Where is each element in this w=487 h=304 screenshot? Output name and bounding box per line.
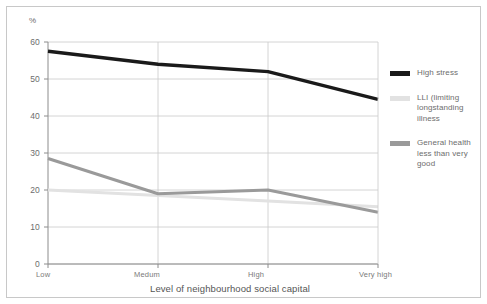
y-tick-label-60: 60 [18,37,40,47]
y-tick-label-20: 20 [18,185,40,195]
y-tick-label-30: 30 [18,148,40,158]
legend-item-lli: LLI (limiting longstanding illness [390,93,482,125]
legend-label-lli: LLI (limiting longstanding illness [417,93,479,125]
y-tick-label-40: 40 [18,111,40,121]
x-tick-label-low: Low [36,270,50,279]
y-tick-label-10: 10 [18,222,40,232]
y-tick-label-50: 50 [18,74,40,84]
legend-label-high-stress: High stress [417,68,458,79]
legend-swatch-high-stress [390,71,410,76]
x-tick-label-high: High [248,270,264,279]
legend-item-high-stress: High stress [390,68,482,79]
chart-page: % 60 50 40 30 20 10 0 Low Medum High Ver… [0,0,487,304]
x-axis-title: Level of neighbourhood social capital [150,283,310,294]
x-tick-label-medum: Medum [134,270,160,279]
legend-swatch-general-health [390,141,410,146]
y-tick-label-0: 0 [18,259,40,269]
y-axis-unit-label: % [29,16,36,25]
legend-item-general-health: General health less than very good [390,138,482,170]
legend-label-general-health: General health less than very good [417,138,479,170]
x-tick-label-very-high: Very high [359,270,392,279]
chart-legend: High stress LLI (limiting longstanding i… [390,68,482,184]
legend-swatch-lli [390,96,410,101]
